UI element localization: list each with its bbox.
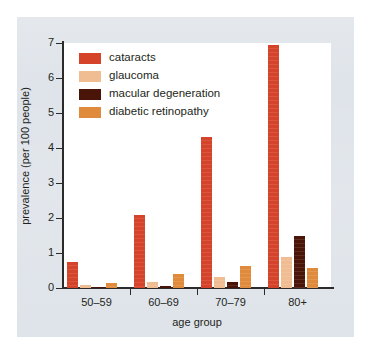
y-axis-tick	[56, 253, 63, 254]
y-axis-tick-label: 7	[40, 37, 54, 48]
y-axis-tick-label: 1	[40, 247, 54, 258]
bar-cataracts-7079	[201, 137, 212, 288]
y-axis-title: prevalence (per 100 people)	[19, 51, 31, 261]
chart-legend: cataractsglaucomamacular degenerationdia…	[79, 50, 259, 122]
x-axis-tick	[130, 289, 131, 295]
bar-diabetic-retinopathy-7079	[240, 266, 251, 288]
bar-macular-degeneration-5059	[93, 287, 104, 289]
legend-label: cataracts	[109, 52, 156, 64]
legend-item: cataracts	[79, 50, 259, 66]
x-axis-tick	[197, 289, 198, 295]
bar-diabetic-retinopathy-80+	[307, 268, 318, 288]
bar-diabetic-retinopathy-6069	[173, 274, 184, 288]
y-axis-tick-label: 5	[40, 107, 54, 118]
bar-glaucoma-7079	[214, 277, 225, 288]
y-axis-tick	[56, 218, 63, 219]
bar-glaucoma-80+	[281, 257, 292, 288]
legend-label: glaucoma	[109, 70, 159, 82]
x-axis-tick-label: 60–69	[129, 297, 199, 308]
x-axis-tick-label: 70–79	[196, 297, 266, 308]
y-axis-tick	[56, 148, 63, 149]
y-axis-tick	[56, 43, 63, 44]
x-axis-tick	[264, 289, 265, 295]
legend-label: macular degeneration	[109, 88, 220, 100]
y-axis-tick-label: 6	[40, 72, 54, 83]
y-axis-tick-label: 2	[40, 212, 54, 223]
bar-macular-degeneration-80+	[294, 236, 305, 288]
bar-macular-degeneration-7079	[227, 282, 238, 288]
y-axis-tick-label: 3	[40, 177, 54, 188]
legend-swatch-icon	[79, 89, 101, 100]
legend-swatch-icon	[79, 71, 101, 82]
bar-glaucoma-5059	[80, 285, 91, 288]
x-axis-tick-label: 80+	[263, 297, 333, 308]
x-axis-title: age group	[63, 316, 331, 328]
bar-cataracts-80+	[268, 45, 279, 288]
legend-item: diabetic retinopathy	[79, 104, 259, 120]
y-axis-tick	[56, 288, 63, 289]
x-axis-tick-label: 50–59	[62, 297, 132, 308]
y-axis-tick-label: 4	[40, 142, 54, 153]
y-axis-tick	[56, 78, 63, 79]
bar-glaucoma-6069	[147, 282, 158, 288]
bar-macular-degeneration-6069	[160, 286, 171, 288]
figure-root: 01234567 prevalence (per 100 people) 50–…	[0, 0, 369, 352]
y-axis-tick	[56, 113, 63, 114]
legend-swatch-icon	[79, 53, 101, 64]
legend-label: diabetic retinopathy	[109, 106, 209, 118]
y-axis-tick	[56, 183, 63, 184]
bar-cataracts-6069	[134, 215, 145, 288]
bar-diabetic-retinopathy-5059	[106, 283, 117, 288]
y-axis-tick-label: 0	[40, 282, 54, 293]
legend-item: glaucoma	[79, 68, 259, 84]
legend-swatch-icon	[79, 107, 101, 118]
legend-item: macular degeneration	[79, 86, 259, 102]
bar-cataracts-5059	[67, 262, 78, 288]
